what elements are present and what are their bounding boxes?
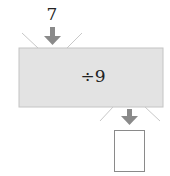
output-funnel-left-line xyxy=(100,107,113,121)
output-arrow-icon xyxy=(121,109,138,125)
input-funnel-right-line xyxy=(67,33,82,48)
function-machine-diagram: 7 ÷9 xyxy=(0,0,170,176)
output-funnel-right-line xyxy=(145,107,160,121)
input-funnel-left-line xyxy=(22,33,38,48)
output-answer-box[interactable] xyxy=(115,131,145,172)
operation-label: ÷9 xyxy=(63,66,123,86)
input-arrow-icon xyxy=(44,27,61,45)
input-value: 7 xyxy=(44,4,60,24)
diagram-graphics xyxy=(0,0,170,176)
